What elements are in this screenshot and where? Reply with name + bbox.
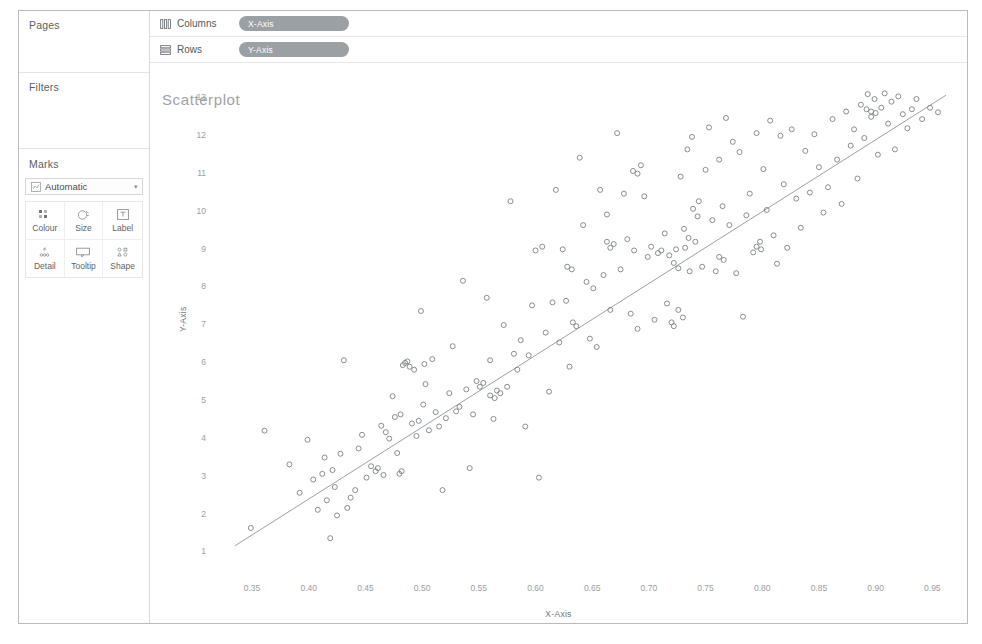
scatter-point[interactable]: [407, 364, 412, 369]
scatter-point[interactable]: [488, 358, 493, 363]
scatter-point[interactable]: [683, 245, 688, 250]
scatter-point[interactable]: [696, 199, 701, 204]
scatterplot-svg[interactable]: 123456789101112130.350.400.450.500.550.6…: [150, 64, 969, 625]
scatter-point[interactable]: [667, 253, 672, 258]
scatter-point[interactable]: [560, 247, 565, 252]
scatter-point[interactable]: [418, 309, 423, 314]
scatter-point[interactable]: [533, 248, 538, 253]
scatter-point[interactable]: [717, 254, 722, 259]
scatter-point[interactable]: [353, 488, 358, 493]
scatter-point[interactable]: [935, 110, 940, 115]
scatter-point[interactable]: [474, 379, 479, 384]
marks-shape-button[interactable]: Shape: [103, 240, 142, 277]
scatter-point[interactable]: [882, 91, 887, 96]
mark-type-dropdown[interactable]: Automatic ▾: [25, 178, 143, 195]
scatter-point[interactable]: [803, 148, 808, 153]
scatter-point[interactable]: [505, 384, 510, 389]
scatter-point[interactable]: [430, 357, 435, 362]
scatter-point[interactable]: [900, 112, 905, 117]
scatter-point[interactable]: [501, 323, 506, 328]
scatter-point[interactable]: [686, 235, 691, 240]
scatter-point[interactable]: [875, 152, 880, 157]
scatter-point[interactable]: [608, 245, 613, 250]
scatter-point[interactable]: [457, 404, 462, 409]
scatter-point[interactable]: [601, 273, 606, 278]
scatter-point[interactable]: [839, 201, 844, 206]
scatter-point[interactable]: [886, 121, 891, 126]
scatter-point[interactable]: [598, 187, 603, 192]
scatter-point[interactable]: [621, 191, 626, 196]
scatter-point[interactable]: [909, 107, 914, 112]
scatter-point[interactable]: [328, 536, 333, 541]
scatter-point[interactable]: [754, 131, 759, 136]
scatter-point[interactable]: [821, 210, 826, 215]
columns-shelf[interactable]: Columns X-Axis: [150, 11, 967, 37]
scatter-point[interactable]: [364, 475, 369, 480]
scatter-point[interactable]: [569, 267, 574, 272]
columns-pill-x-axis[interactable]: X-Axis: [239, 16, 349, 31]
scatter-point[interactable]: [761, 167, 766, 172]
scatter-point[interactable]: [649, 244, 654, 249]
scatter-point[interactable]: [700, 264, 705, 269]
scatter-point[interactable]: [873, 111, 878, 116]
scatter-point[interactable]: [757, 239, 762, 244]
scatter-point[interactable]: [665, 301, 670, 306]
scatter-point[interactable]: [778, 133, 783, 138]
visualization-area[interactable]: Scatterplot 123456789101112130.350.400.4…: [150, 64, 967, 623]
scatter-point[interactable]: [567, 364, 572, 369]
trend-line[interactable]: [235, 95, 946, 546]
scatter-point[interactable]: [632, 248, 637, 253]
rows-shelf[interactable]: Rows Y-Axis: [150, 37, 967, 63]
scatter-point[interactable]: [409, 421, 414, 426]
scatter-point[interactable]: [751, 250, 756, 255]
scatter-point[interactable]: [471, 412, 476, 417]
scatter-point[interactable]: [581, 223, 586, 228]
scatter-point[interactable]: [523, 424, 528, 429]
scatter-point[interactable]: [674, 247, 679, 252]
scatter-point[interactable]: [322, 455, 327, 460]
scatter-point[interactable]: [615, 131, 620, 136]
scatter-point[interactable]: [530, 303, 535, 308]
scatter-point[interactable]: [695, 214, 700, 219]
scatter-point[interactable]: [492, 396, 497, 401]
scatter-point[interactable]: [706, 125, 711, 130]
scatter-point[interactable]: [423, 382, 428, 387]
scatter-point[interactable]: [536, 475, 541, 480]
scatter-point[interactable]: [826, 185, 831, 190]
scatter-point[interactable]: [659, 248, 664, 253]
scatter-point[interactable]: [414, 433, 419, 438]
scatter-point[interactable]: [421, 402, 426, 407]
scatter-point[interactable]: [879, 105, 884, 110]
scatter-point[interactable]: [618, 267, 623, 272]
marks-detail-button[interactable]: # Detail: [26, 240, 65, 277]
scatter-point[interactable]: [807, 190, 812, 195]
scatter-point[interactable]: [798, 225, 803, 230]
scatter-point[interactable]: [395, 451, 400, 456]
scatter-point[interactable]: [734, 271, 739, 276]
scatter-point[interactable]: [844, 109, 849, 114]
scatter-point[interactable]: [338, 451, 343, 456]
scatter-point[interactable]: [526, 353, 531, 358]
scatter-point[interactable]: [848, 143, 853, 148]
scatter-point[interactable]: [713, 269, 718, 274]
scatter-point[interactable]: [928, 105, 933, 110]
scatter-point[interactable]: [467, 466, 472, 471]
filters-card[interactable]: Filters: [19, 73, 149, 149]
scatter-point[interactable]: [689, 134, 694, 139]
scatter-point[interactable]: [345, 505, 350, 510]
scatter-point[interactable]: [812, 132, 817, 137]
scatter-point[interactable]: [335, 513, 340, 518]
scatter-point[interactable]: [447, 391, 452, 396]
scatter-point[interactable]: [416, 418, 421, 423]
scatter-point[interactable]: [540, 244, 545, 249]
scatter-point[interactable]: [905, 126, 910, 131]
scatter-point[interactable]: [381, 472, 386, 477]
scatter-point[interactable]: [564, 298, 569, 303]
scatter-point[interactable]: [680, 315, 685, 320]
scatter-point[interactable]: [676, 307, 681, 312]
scatter-point[interactable]: [889, 99, 894, 104]
marks-label-button[interactable]: Label: [103, 202, 142, 240]
scatter-point[interactable]: [348, 495, 353, 500]
rows-pill-y-axis[interactable]: Y-Axis: [239, 42, 349, 57]
scatter-point[interactable]: [865, 92, 870, 97]
